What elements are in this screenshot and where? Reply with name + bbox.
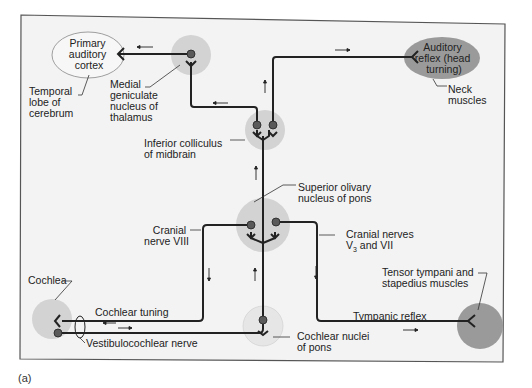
inferior-colliculus (245, 110, 285, 150)
label-superior-olivary: Superior olivary nucleus of pons (298, 181, 374, 204)
soma-son-left (247, 221, 255, 229)
soma-cochlear-nuclei (259, 316, 267, 324)
auditory-pathway-diagram: Primary auditory cortex Temporal lobe of… (0, 0, 532, 388)
label-tensor-tympani: Tensor tympani and stapedius muscles (382, 266, 477, 289)
label-cochlear-tuning: Cochlear tuning (95, 306, 169, 318)
label-cochlea: Cochlea (28, 274, 67, 286)
label-tympanic-reflex: Tympanic reflex (353, 310, 427, 322)
soma-son-right (272, 218, 280, 226)
panel-label: (a) (18, 372, 31, 384)
soma-ic-left (253, 121, 261, 129)
soma-ic-right (269, 121, 277, 129)
soma-cochlea (54, 329, 62, 337)
tensor-tympani-stapedius (457, 303, 503, 349)
label-vestibulocochlear-nerve: Vestibulocochlear nerve (86, 337, 198, 349)
label-primary-auditory-cortex: Primary auditory cortex (69, 37, 109, 71)
soma-mgn (187, 50, 195, 58)
